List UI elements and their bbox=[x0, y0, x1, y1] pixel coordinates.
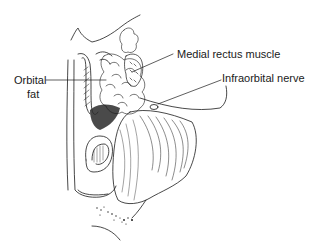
hatched-wall bbox=[84, 67, 90, 106]
label-orbital-fat-line2: fat bbox=[27, 88, 39, 100]
leader-infraorbital-nerve bbox=[158, 80, 221, 104]
inferior-turbinate bbox=[86, 136, 113, 172]
maxillary-sinus bbox=[113, 110, 196, 203]
label-orbital-fat-line1: Orbital bbox=[14, 74, 46, 86]
orbit-floor bbox=[140, 86, 227, 110]
label-infraorbital-nerve: Infraorbital nerve bbox=[222, 72, 305, 84]
leader-medial-rectus bbox=[132, 54, 173, 72]
anatomical-illustration bbox=[0, 0, 310, 252]
alveolar-stipple bbox=[96, 206, 133, 224]
label-medial-rectus: Medial rectus muscle bbox=[177, 48, 280, 60]
orbital-fat-lobules bbox=[100, 28, 145, 114]
shaded-region bbox=[90, 104, 120, 130]
leader-lines bbox=[46, 54, 221, 104]
alveolar-outline bbox=[92, 200, 146, 240]
